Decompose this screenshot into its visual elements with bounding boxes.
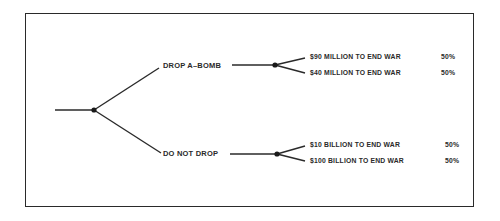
outcome-probability: 50%: [445, 156, 459, 166]
branch-label-do-not-drop: DO NOT DROP: [163, 149, 218, 159]
chance-node-not-drop: [274, 151, 279, 156]
outcome-label: $100 BILLION TO END WAR: [310, 156, 404, 166]
decision-tree-lines: [0, 0, 500, 221]
outcome-probability: 50%: [445, 140, 459, 150]
outcome-probability: 50%: [441, 52, 455, 62]
branch-label-drop-a-bomb: DROP A–BOMB: [163, 61, 221, 71]
outcome-label: $10 BILLION TO END WAR: [310, 140, 400, 150]
outcome-label: $90 MILLION TO END WAR: [310, 52, 401, 62]
outcome-label: $40 MILLION TO END WAR: [310, 68, 401, 78]
outcome-probability: 50%: [441, 68, 455, 78]
chance-node-drop: [272, 62, 277, 67]
root-decision-node: [91, 107, 96, 112]
